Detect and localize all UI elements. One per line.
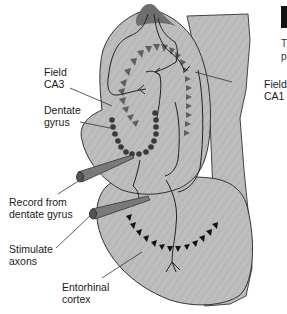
label-field-ca3: Field CA3: [44, 66, 67, 90]
label-field-ca1: Field CA1: [264, 78, 287, 102]
label-entorhinal-cortex: Entorhinal cortex: [62, 281, 109, 305]
label-record: Record from dentate gyrus: [9, 196, 73, 220]
label-stimulate: Stimulate axons: [9, 243, 53, 267]
figure-corner-box: [281, 6, 287, 28]
partial-caption: Th pu: [281, 37, 287, 63]
alveus-cap: [136, 4, 176, 26]
label-dentate-gyrus: Dentate gyrus: [44, 104, 81, 128]
